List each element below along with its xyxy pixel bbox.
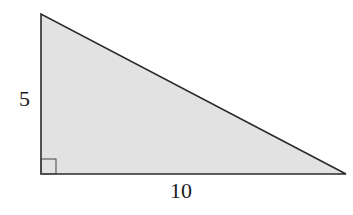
right-triangle xyxy=(41,14,346,174)
horizontal-leg-label: 10 xyxy=(170,178,192,203)
triangle-diagram: 5 10 xyxy=(0,0,353,215)
vertical-leg-label: 5 xyxy=(19,86,30,111)
